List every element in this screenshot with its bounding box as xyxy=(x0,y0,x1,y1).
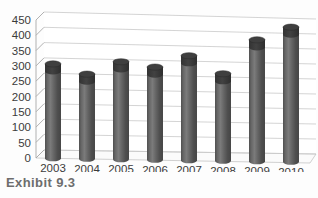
y-axis-tick-label: 150 xyxy=(12,106,31,118)
y-axis-tick-label: 100 xyxy=(12,121,31,133)
x-axis-tick-label: 2004 xyxy=(74,163,100,172)
bar-top-ellipse xyxy=(113,59,129,65)
y-axis-tick-label: 0 xyxy=(25,152,31,164)
y-axis xyxy=(36,12,44,158)
bar-body xyxy=(181,56,197,164)
bar-body xyxy=(45,64,61,161)
bar-body xyxy=(147,67,163,163)
bar-chart: 050100150200250300350400450 200320042005… xyxy=(0,0,318,172)
bar-cylinder xyxy=(113,59,129,163)
chart-canvas: 050100150200250300350400450 200320042005… xyxy=(0,0,318,172)
figure-exhibit: 050100150200250300350400450 200320042005… xyxy=(0,0,318,198)
bar-body xyxy=(79,74,95,162)
bar-top-ellipse xyxy=(283,24,299,30)
x-axis-tick-label: 2007 xyxy=(176,164,202,172)
bar-top-ellipse xyxy=(45,61,61,67)
bar-cylinder xyxy=(249,37,265,165)
x-axis-tick-label: 2008 xyxy=(210,165,236,172)
y-axis-tick-label: 50 xyxy=(18,137,31,149)
x-axis-tick-labels: 20032004200520062007200820092010 xyxy=(40,162,304,172)
bar-cylinder xyxy=(283,24,299,165)
y-axis-tick-label: 400 xyxy=(12,29,31,41)
bar-cylinder xyxy=(181,53,197,164)
x-axis-tick-label: 2006 xyxy=(142,164,168,172)
bar-top-ellipse xyxy=(181,53,197,59)
bar-cylinder xyxy=(215,71,231,164)
figure-caption: Exhibit 9.3 xyxy=(6,175,75,190)
bar-body xyxy=(215,74,231,164)
bar-body xyxy=(283,27,299,165)
bar-top-ellipse xyxy=(79,71,95,77)
y-axis-tick-label: 350 xyxy=(12,45,31,57)
y-axis-tick-label: 250 xyxy=(12,75,31,87)
x-axis-tick-label: 2009 xyxy=(244,165,270,172)
bar-body xyxy=(249,40,265,165)
x-axis-tick-label: 2010 xyxy=(278,166,304,172)
y-axis-tick-labels: 050100150200250300350400450 xyxy=(12,14,31,164)
y-axis-tick-label: 450 xyxy=(12,14,31,26)
bar-cylinder xyxy=(45,61,61,162)
bar-top-ellipse xyxy=(249,37,265,43)
bar-body xyxy=(113,62,129,163)
x-axis-tick-label: 2005 xyxy=(108,163,134,172)
y-axis-tick-label: 300 xyxy=(12,60,31,72)
bar-top-ellipse xyxy=(215,71,231,77)
x-axis-tick-label: 2003 xyxy=(40,162,66,172)
y-axis-tick-label: 200 xyxy=(12,91,31,103)
bar-top-ellipse xyxy=(147,64,163,70)
bar-cylinder xyxy=(79,71,95,162)
bar-cylinder xyxy=(147,64,163,163)
